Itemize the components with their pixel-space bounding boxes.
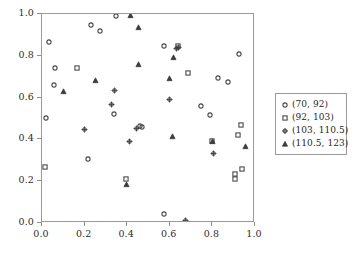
- triangle-marker-icon: [280, 139, 289, 148]
- legend-item: (110.5, 123): [280, 137, 342, 150]
- x-axis-tick-label: 0.2: [64, 228, 104, 239]
- diamond-marker-icon: [280, 126, 289, 135]
- x-axis-tick-label: 0.6: [149, 228, 189, 239]
- data-point: [74, 65, 79, 70]
- data-point: [166, 75, 171, 80]
- square-marker-icon: [280, 113, 289, 122]
- data-point: [81, 126, 86, 131]
- legend-item: (70, 92): [280, 98, 342, 111]
- data-point: [97, 28, 102, 33]
- data-point: [185, 70, 190, 75]
- x-axis-tick: [84, 222, 85, 226]
- x-axis-tick-label: 0.4: [106, 228, 146, 239]
- y-axis-tick-label: 1.0: [0, 7, 34, 18]
- data-point: [51, 82, 56, 87]
- data-point: [170, 54, 175, 59]
- legend-item-label: (70, 92): [292, 98, 328, 111]
- data-point: [42, 164, 47, 169]
- data-point: [166, 96, 171, 101]
- data-points-layer: [42, 14, 253, 221]
- legend-item: (103, 110.5): [280, 124, 342, 137]
- data-point: [210, 150, 215, 155]
- data-point: [238, 122, 243, 127]
- y-axis-tick: [37, 55, 41, 56]
- data-point: [169, 133, 174, 138]
- data-point: [46, 39, 51, 44]
- x-axis-tick-label: 0.0: [21, 228, 61, 239]
- data-point: [239, 166, 244, 171]
- data-point: [161, 211, 166, 216]
- data-point: [236, 51, 241, 56]
- x-axis-tick: [41, 222, 42, 226]
- data-point: [215, 75, 220, 80]
- data-point: [126, 138, 131, 143]
- data-point: [85, 156, 90, 161]
- y-axis-tick-label: 0.6: [0, 91, 34, 102]
- data-point: [43, 115, 48, 120]
- legend: (70, 92)(92, 103)(103, 110.5)(110.5, 123…: [275, 93, 347, 155]
- data-point: [207, 112, 212, 117]
- data-point: [92, 77, 97, 82]
- data-point: [123, 181, 128, 186]
- circle-marker-icon: [280, 100, 289, 109]
- data-point: [182, 217, 187, 221]
- data-point: [135, 61, 140, 66]
- y-axis-tick-label: 0.8: [0, 49, 34, 60]
- data-point: [235, 132, 240, 137]
- legend-item-label: (92, 103): [292, 111, 334, 124]
- data-point: [198, 103, 203, 108]
- y-axis-tick-label: 0.0: [0, 216, 34, 227]
- legend-item: (92, 103): [280, 111, 342, 124]
- data-point: [60, 88, 65, 93]
- x-axis-tick: [126, 222, 127, 226]
- scatter-chart-figure: 0.00.20.40.60.81.00.00.20.40.60.81.0 (70…: [0, 0, 356, 258]
- data-point: [225, 79, 230, 84]
- y-axis-tick: [37, 13, 41, 14]
- y-axis-tick: [37, 222, 41, 223]
- legend-item-label: (110.5, 123): [292, 137, 348, 150]
- data-point: [108, 101, 113, 106]
- x-axis-tick: [169, 222, 170, 226]
- data-point: [242, 143, 247, 148]
- data-point: [232, 171, 237, 176]
- x-axis-tick: [254, 222, 255, 226]
- data-point: [175, 44, 180, 49]
- y-axis-tick: [37, 180, 41, 181]
- y-axis-tick-label: 0.4: [0, 132, 34, 143]
- data-point: [232, 176, 237, 181]
- y-axis-tick: [37, 138, 41, 139]
- data-point: [52, 65, 57, 70]
- data-point: [88, 22, 93, 27]
- data-point: [113, 14, 118, 18]
- x-axis-tick: [211, 222, 212, 226]
- data-point: [127, 14, 132, 17]
- data-point: [209, 138, 214, 143]
- x-axis-tick-label: 0.8: [191, 228, 231, 239]
- x-axis-tick-label: 1.0: [234, 228, 274, 239]
- data-point: [111, 87, 116, 92]
- y-axis-tick-label: 0.2: [0, 174, 34, 185]
- data-point: [135, 24, 140, 29]
- data-point: [161, 43, 166, 48]
- data-point: [133, 125, 138, 130]
- data-point: [111, 111, 116, 116]
- y-axis-tick: [37, 97, 41, 98]
- legend-item-label: (103, 110.5): [292, 124, 348, 137]
- plot-area: [41, 13, 254, 222]
